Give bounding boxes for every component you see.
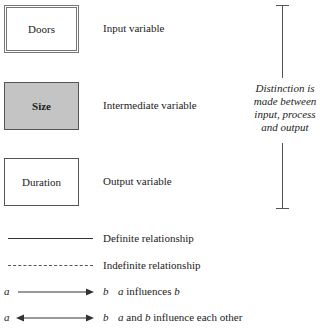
desc-mid: influences [124,285,175,297]
two-way-arrow-description: a and b influence each other [118,311,242,323]
solid-line-swatch [8,238,93,239]
output-variable-caption: Output variable [103,175,172,187]
bracket-upper-line [282,5,283,78]
bracket-lower-line [282,143,283,208]
one-way-arrow-description: a influences b [118,285,180,297]
intermediate-variable-box: Size [4,82,79,130]
output-variable-box: Duration [4,158,79,206]
bracket-annotation-line: input, process [248,108,320,121]
arrow-target-letter: b [103,285,109,297]
input-variable-name: Doors [28,23,55,35]
indefinite-relationship-label: Indefinite relationship [103,259,200,271]
bracket-annotation-line: Distinction is [248,82,320,95]
arrow-source-letter: a [4,285,10,297]
dashed-line-swatch [8,265,93,266]
bracket-annotation-line: and output [248,121,320,134]
intermediate-variable-name: Size [32,100,51,112]
bracket-bottom-cap [276,208,289,209]
double-arrow-icon [16,313,94,323]
desc-b: b [174,285,180,297]
arrow-source-letter: a [4,311,10,323]
desc-mid: and [124,311,145,323]
arrow-target-letter: b [103,311,109,323]
input-variable-box: Doors [4,5,79,53]
desc-tail: influence each other [150,311,242,323]
bracket-annotation-line: made between [248,95,320,108]
intermediate-variable-caption: Intermediate variable [103,99,197,111]
bracket-annotation: Distinction is made between input, proce… [248,82,320,134]
definite-relationship-label: Definite relationship [103,232,194,244]
right-arrow-icon [16,287,94,297]
input-variable-caption: Input variable [103,22,164,34]
output-variable-name: Duration [22,176,61,188]
